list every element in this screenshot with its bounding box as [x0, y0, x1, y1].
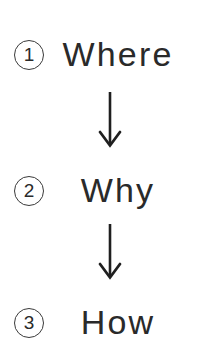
- arrow-down-icon: [96, 92, 124, 150]
- flow-connector-2: [0, 224, 220, 282]
- step-label-2: Why: [0, 173, 220, 209]
- flow-step-3: 3 How: [0, 300, 220, 346]
- step-label-text-1: Where: [62, 37, 173, 73]
- flow-diagram: 1 Where 2 Why 3 How: [0, 0, 220, 354]
- arrow-down-icon: [96, 224, 124, 282]
- flow-connector-1: [0, 92, 220, 150]
- flow-step-1: 1 Where: [0, 32, 220, 78]
- step-label-text-2: Why: [81, 173, 156, 209]
- step-label-3: How: [0, 305, 220, 341]
- step-label-1: Where: [0, 37, 220, 73]
- step-label-text-3: How: [81, 305, 156, 341]
- flow-step-2: 2 Why: [0, 168, 220, 214]
